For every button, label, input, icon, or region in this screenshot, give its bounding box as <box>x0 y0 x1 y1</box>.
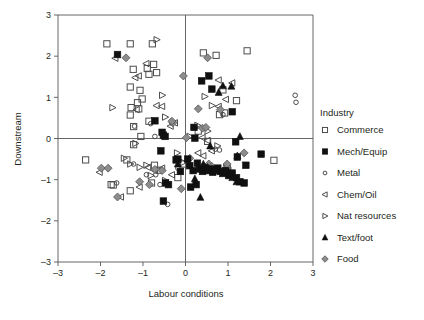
point-filled-square <box>243 162 250 169</box>
legend-item-label: Commerce <box>337 124 383 135</box>
x-tick-label: –2 <box>95 268 105 278</box>
y-tick-label: –2 <box>41 216 51 226</box>
y-tick-label: 2 <box>46 51 51 61</box>
chart-background <box>0 0 424 320</box>
x-tick-label: 2 <box>268 268 273 278</box>
point-filled-square <box>192 135 199 142</box>
x-tick-label: –3 <box>53 268 63 278</box>
x-tick-label: –1 <box>138 268 148 278</box>
legend-item-label: Chem/Oil <box>337 189 377 200</box>
legend-item-label: Text/foot <box>337 232 373 243</box>
point-filled-square <box>165 181 172 188</box>
point-filled-square <box>184 156 191 163</box>
point-filled-square <box>206 73 213 80</box>
x-tick-label: 0 <box>183 268 188 278</box>
legend-item-label: Mech/Equip <box>337 146 387 157</box>
chart-canvas: –3–2–10123–3–2–10123 Labour conditions D… <box>0 0 424 320</box>
y-tick-label: –1 <box>41 175 51 185</box>
point-filled-square <box>193 181 200 188</box>
x-tick-label: 3 <box>310 268 315 278</box>
point-filled-square <box>114 51 121 58</box>
scatter-plot-figure: –3–2–10123–3–2–10123 Labour conditions D… <box>0 0 424 320</box>
y-tick-label: 0 <box>46 134 51 144</box>
point-filled-square <box>160 198 167 205</box>
legend-item-label: Nat resources <box>337 210 396 221</box>
point-filled-square <box>258 151 265 158</box>
point-filled-square <box>152 117 159 124</box>
y-tick-label: –3 <box>41 257 51 267</box>
legend-item-label: Metal <box>337 167 360 178</box>
point-filled-square <box>191 124 198 131</box>
y-tick-label: 3 <box>46 10 51 20</box>
point-filled-square <box>229 108 236 115</box>
point-filled-square <box>162 133 169 140</box>
x-axis-title: Labour conditions <box>149 288 224 299</box>
legend-title: Industry <box>320 107 354 118</box>
point-filled-square <box>241 180 248 187</box>
point-filled-square <box>158 148 165 155</box>
y-tick-label: 1 <box>46 93 51 103</box>
point-filled-square <box>322 149 327 154</box>
point-filled-square <box>198 78 205 85</box>
legend-item-label: Food <box>337 253 359 264</box>
point-filled-square <box>190 167 197 174</box>
y-axis-title: Downstream <box>12 112 23 165</box>
point-filled-square <box>209 86 216 93</box>
point-filled-square <box>177 168 184 175</box>
x-tick-label: 1 <box>225 268 230 278</box>
